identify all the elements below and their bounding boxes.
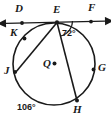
point-dot-j <box>13 70 17 74</box>
arc-label-106: 106° <box>17 103 36 112</box>
center-label-q: Q <box>43 58 51 69</box>
point-label-d: D <box>15 3 23 14</box>
angle-label-72: 72° <box>62 29 76 38</box>
geometry-diagram: D E F K J G H Q 72° 106° <box>0 0 111 120</box>
point-label-j: J <box>4 65 10 76</box>
point-dot-e <box>55 20 59 24</box>
point-dot-k <box>23 37 27 41</box>
point-label-k: K <box>10 27 17 38</box>
point-label-h: H <box>73 104 82 115</box>
point-label-g: G <box>98 62 106 73</box>
point-dot-d <box>20 21 24 25</box>
point-dot-q <box>53 62 57 66</box>
point-label-f: F <box>88 2 95 13</box>
point-dot-h <box>75 99 79 103</box>
point-dot-f <box>89 20 93 24</box>
point-label-e: E <box>53 4 60 15</box>
point-dot-g <box>92 68 96 72</box>
